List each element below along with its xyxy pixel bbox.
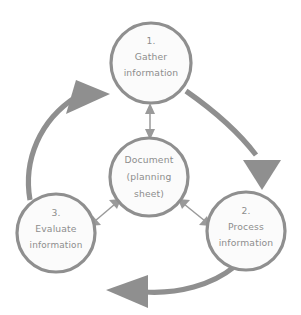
node-gather[interactable]: 1. Gather information	[111, 23, 191, 103]
cycle-arrowhead-left	[106, 275, 148, 308]
cycle-arrow-evaluate-to-gather	[28, 80, 110, 200]
cycle-arc-bottom	[145, 267, 234, 292]
cycle-arrow-process-to-evaluate	[106, 267, 234, 308]
process-cycle-diagram: 1. Gather information 2. Process informa…	[0, 0, 301, 315]
node-gather-line-1: 1.	[146, 35, 155, 46]
diagram-canvas: 1. Gather information 2. Process informa…	[0, 0, 301, 315]
document-process-link	[178, 199, 211, 226]
node-evaluate-line-1: 3.	[51, 207, 60, 218]
node-process-line-3: information	[219, 237, 274, 248]
cycle-arrow-gather-to-process	[186, 91, 281, 190]
node-gather-line-3: information	[124, 67, 179, 78]
cycle-arrowhead-down	[243, 160, 281, 190]
node-evaluate-line-2: Evaluate	[35, 223, 77, 234]
link-line-right-diagonal	[184, 204, 205, 221]
cycle-arc-right	[186, 91, 256, 155]
node-document-line-3: sheet)	[134, 188, 164, 199]
node-process-line-1: 2.	[241, 205, 250, 216]
node-process-line-2: Process	[228, 221, 264, 232]
document-gather-link	[145, 103, 155, 140]
node-evaluate-line-3: information	[30, 240, 83, 250]
node-evaluate[interactable]: 3. Evaluate information	[17, 194, 95, 272]
node-document-line-1: Document	[125, 154, 174, 165]
node-document-line-2: (planning	[127, 171, 172, 182]
node-gather-line-2: Gather	[135, 51, 168, 62]
link-line-left-diagonal	[95, 204, 115, 221]
cycle-arrowhead-upright	[66, 80, 110, 114]
node-process[interactable]: 2. Process information	[207, 192, 285, 270]
link-arrowhead-up	[145, 103, 155, 114]
node-document[interactable]: Document (planning sheet)	[110, 138, 188, 216]
